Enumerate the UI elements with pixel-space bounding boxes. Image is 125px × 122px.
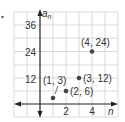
y-axis-label: an <box>42 8 52 20</box>
bullet-marker <box>1 16 3 18</box>
y-tick-24: 24 <box>25 47 37 58</box>
y-tick-12: 12 <box>25 74 37 85</box>
x-tick-2: 2 <box>63 106 69 117</box>
point-label-3-12: (3, 12) <box>83 73 112 84</box>
scatter-chart: 2 4 36 24 12 n an (1, 3) (2, 6) (3, 12) … <box>0 0 125 122</box>
point-label-4-24: (4, 24) <box>81 37 110 48</box>
point-3-12 <box>77 76 82 81</box>
leader-line <box>55 86 58 94</box>
point-label-2-6: (2, 6) <box>70 86 93 97</box>
x-axis-left-arrow-icon <box>14 102 21 107</box>
y-tick-36: 36 <box>25 20 37 31</box>
point-2-6 <box>64 89 69 94</box>
point-label-1-3: (1, 3) <box>43 75 66 86</box>
point-1-3 <box>51 96 56 101</box>
x-axis-label: n <box>108 106 114 117</box>
point-4-24 <box>90 49 95 54</box>
x-tick-4: 4 <box>89 106 95 117</box>
